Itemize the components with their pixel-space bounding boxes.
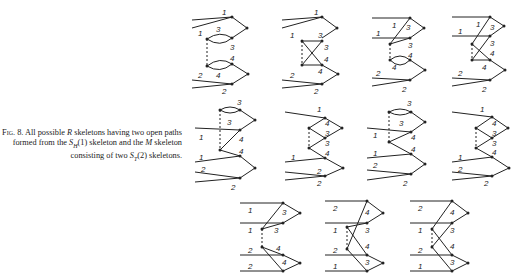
svg-text:4: 4 (450, 208, 455, 217)
svg-text:1: 1 (458, 27, 462, 36)
svg-text:3: 3 (490, 23, 495, 32)
figure-caption: Fig. 8. All possible R skeletons having … (2, 128, 182, 163)
svg-text:4: 4 (239, 147, 244, 156)
svg-text:4: 4 (492, 148, 497, 157)
svg-text:4: 4 (482, 63, 487, 72)
svg-text:4: 4 (411, 133, 416, 142)
svg-text:2: 2 (221, 87, 227, 96)
svg-text:2: 2 (372, 161, 378, 170)
caption-text: All possible R skeletons having two open… (13, 128, 182, 160)
skeleton-diagram-r1c3: 1 1 3 3 4 4 2 2 (372, 8, 432, 97)
svg-text:1: 1 (291, 153, 295, 162)
svg-text:2: 2 (313, 87, 319, 96)
svg-text:1: 1 (476, 20, 480, 29)
svg-text:1: 1 (458, 153, 462, 162)
svg-text:2: 2 (247, 246, 253, 255)
skeleton-diagram-r2c4: 1 4 3 3 4 1 2 2 (452, 100, 512, 192)
skeleton-diagram-r2c3: 3 3 1 4 1 4 2 2 (367, 100, 427, 192)
svg-text:3: 3 (274, 226, 279, 235)
skeleton-diagram-r1c2: 1 1 3 3 4 4 2 2 (282, 8, 342, 97)
svg-text:4: 4 (365, 242, 370, 251)
svg-text:2: 2 (197, 71, 203, 80)
svg-text:4: 4 (365, 208, 370, 217)
svg-text:1: 1 (314, 8, 318, 17)
svg-text:3: 3 (282, 208, 287, 217)
svg-text:1: 1 (392, 21, 396, 30)
skeleton-diagram-r1c1: 1 1 3 3 4 4 2 2 (192, 8, 252, 97)
svg-text:2: 2 (200, 165, 206, 174)
svg-text:3: 3 (318, 31, 323, 40)
svg-text:3: 3 (408, 41, 413, 50)
svg-text:4: 4 (325, 149, 330, 158)
svg-text:2: 2 (402, 179, 408, 188)
svg-text:4: 4 (230, 54, 235, 63)
svg-text:2: 2 (483, 179, 489, 188)
svg-text:2: 2 (401, 85, 407, 94)
svg-text:3: 3 (450, 226, 455, 235)
svg-text:2: 2 (417, 204, 423, 213)
svg-text:4: 4 (392, 63, 397, 72)
svg-text:3: 3 (230, 43, 235, 52)
svg-text:3: 3 (237, 98, 242, 107)
svg-text:3: 3 (450, 258, 455, 267)
svg-text:4: 4 (408, 51, 413, 60)
svg-text:4: 4 (324, 55, 329, 64)
svg-text:4: 4 (411, 145, 416, 154)
svg-text:1: 1 (199, 153, 203, 162)
svg-text:1: 1 (248, 226, 252, 235)
svg-text:2: 2 (481, 85, 487, 94)
svg-text:4: 4 (492, 119, 497, 128)
svg-text:4: 4 (276, 244, 281, 253)
svg-text:1: 1 (373, 149, 377, 158)
svg-text:3: 3 (490, 39, 495, 48)
svg-text:2: 2 (332, 204, 338, 213)
svg-text:2: 2 (417, 246, 423, 255)
svg-text:4: 4 (282, 258, 287, 267)
svg-text:4: 4 (216, 71, 221, 80)
svg-text:3: 3 (324, 43, 329, 52)
skeleton-diagram-r2c1: 3 3 1 4 1 4 2 2 (195, 100, 255, 192)
svg-text:3: 3 (325, 129, 330, 138)
svg-text:3: 3 (365, 258, 370, 267)
svg-text:2: 2 (230, 183, 236, 192)
svg-text:1: 1 (376, 29, 380, 38)
svg-text:4: 4 (239, 135, 244, 144)
svg-text:3: 3 (227, 118, 232, 127)
skeleton-diagram-r3c1: 1 3 1 3 4 2 4 2 (240, 193, 305, 277)
svg-text:2: 2 (289, 71, 295, 80)
svg-text:3: 3 (492, 139, 497, 148)
svg-text:1: 1 (373, 131, 377, 140)
svg-text:4: 4 (325, 119, 330, 128)
svg-text:1: 1 (222, 8, 226, 17)
svg-text:3: 3 (216, 25, 221, 34)
svg-text:2: 2 (457, 69, 463, 78)
svg-text:3: 3 (492, 129, 497, 138)
svg-text:3: 3 (365, 226, 370, 235)
skeleton-diagram-r3c2: 2 4 1 3 4 2 3 1 (325, 193, 390, 277)
svg-text:1: 1 (317, 105, 321, 114)
svg-text:4: 4 (450, 242, 455, 251)
skeleton-diagram-r3c3: 2 4 1 3 4 2 3 1 (410, 193, 475, 277)
svg-text:1: 1 (480, 105, 484, 114)
skeleton-diagram-r2c2: 1 4 3 3 4 1 2 2 (285, 100, 345, 192)
svg-text:1: 1 (290, 31, 294, 40)
svg-text:2: 2 (457, 165, 463, 174)
svg-text:2: 2 (375, 69, 381, 78)
svg-text:4: 4 (490, 49, 495, 58)
svg-text:1: 1 (198, 29, 202, 38)
svg-text:1: 1 (333, 262, 337, 271)
svg-text:1: 1 (199, 133, 203, 142)
svg-text:1: 1 (418, 226, 422, 235)
svg-text:2: 2 (247, 262, 253, 271)
svg-text:3: 3 (325, 139, 330, 148)
svg-text:2: 2 (316, 179, 322, 188)
svg-text:1: 1 (248, 206, 252, 215)
svg-text:1: 1 (418, 262, 422, 271)
svg-text:1: 1 (333, 226, 337, 235)
figure-label: Fig. 8. (2, 128, 23, 137)
svg-text:3: 3 (407, 99, 412, 108)
svg-text:2: 2 (332, 246, 338, 255)
skeleton-diagram-r1c4: 1 1 3 3 4 4 2 2 (452, 8, 512, 97)
svg-text:3: 3 (406, 23, 411, 32)
svg-text:4: 4 (318, 67, 323, 76)
